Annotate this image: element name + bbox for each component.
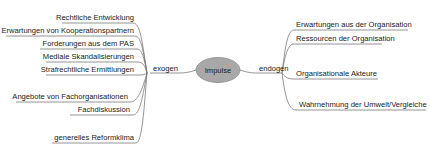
exogen-item: Angebote von Fachorganisationen — [12, 92, 128, 101]
endogen-item: Ressourcen der Organisation — [296, 34, 395, 43]
exogen-item: Forderungen aus dem PAS — [43, 39, 134, 48]
exogen-item: Erwartungen von Kooperationspartnern — [1, 26, 134, 35]
endogen-item: Organisationale Akteure — [296, 69, 377, 78]
exogen-item: Fachdiskussion — [78, 105, 130, 114]
exogen-item: generelles Reformklima — [54, 133, 134, 142]
exogen-item: Rechtliche Entwicklung — [56, 13, 134, 22]
exogen-item: Mediale Skandalisierungen — [43, 52, 134, 61]
endogen-item: Wahrnehmung der Umwelt/Vergleiche — [299, 100, 427, 109]
root-node-label: Impulse — [196, 66, 240, 75]
branch-label-endogen: endogen — [259, 64, 289, 73]
exogen-item: Strafrechtliche Ermittlungen — [41, 65, 134, 74]
endogen-item: Erwartungen aus der Organisation — [296, 20, 412, 29]
branch-label-exogen: exogen — [153, 64, 178, 73]
